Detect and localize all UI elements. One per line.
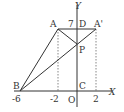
point-d-label: D (79, 19, 86, 29)
point-a-prime-label: A' (93, 19, 103, 29)
tick-label-x-neg2: -2 (50, 94, 59, 104)
origin-label: O (68, 95, 75, 105)
point-c-label: C (79, 81, 86, 91)
tick-label-y7: 7 (68, 19, 74, 29)
segment-ap (58, 29, 77, 44)
point-p-label: P (79, 45, 85, 55)
tick-label-x2: 2 (93, 94, 99, 104)
x-axis-label: X (108, 87, 116, 97)
point-a-label: A (49, 19, 57, 29)
y-axis-label: Y (75, 1, 82, 11)
tick-label-x-neg6: -6 (12, 94, 21, 104)
point-b-label: B (13, 81, 20, 91)
coordinate-diagram: Y X A 7 D A' P B C -6 -2 O 2 (0, 0, 124, 112)
segment-ab (20, 29, 58, 91)
